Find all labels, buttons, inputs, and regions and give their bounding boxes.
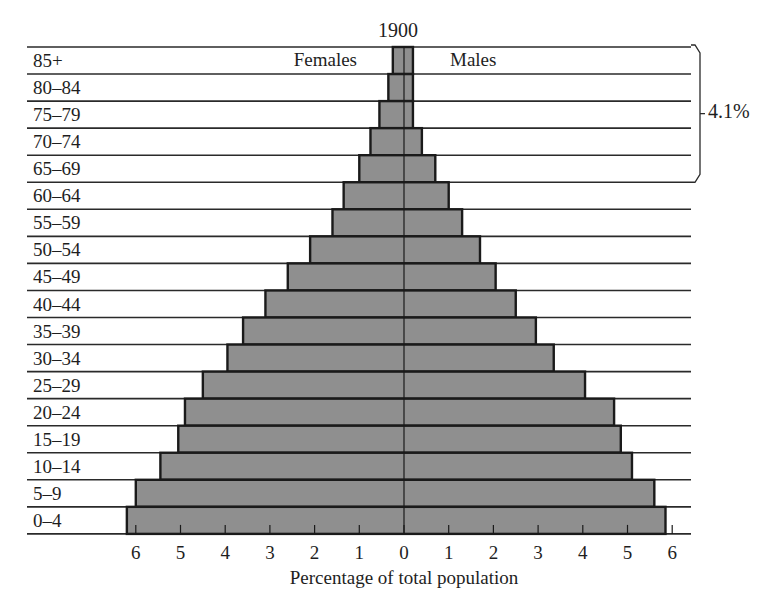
bar-85+	[393, 47, 413, 74]
x-tick-label: 1	[355, 542, 365, 563]
x-tick-label: 6	[131, 542, 141, 563]
x-tick-label: 1	[444, 542, 454, 563]
age-label: 85+	[33, 50, 63, 71]
age-label: 0–4	[33, 510, 62, 531]
age-label: 70–74	[33, 131, 81, 152]
age-label: 40–44	[33, 294, 81, 315]
bar-70-74	[370, 128, 421, 155]
age-label: 15–19	[33, 429, 81, 450]
x-tick-label: 5	[623, 542, 633, 563]
bar-5-9	[136, 480, 655, 507]
x-axis-title: Percentage of total population	[290, 567, 519, 588]
age-label: 55–59	[33, 212, 81, 233]
age-label: 10–14	[33, 456, 81, 477]
x-tick-label: 4	[220, 542, 230, 563]
bracket-annotation	[691, 45, 705, 182]
bar-25-29	[203, 372, 585, 399]
x-tick-label: 4	[578, 542, 588, 563]
bar-80-84	[388, 74, 413, 101]
bar-65-69	[359, 155, 435, 182]
bar-30-34	[227, 345, 553, 372]
bar-55-59	[332, 209, 462, 236]
bar-75-79	[379, 101, 413, 128]
age-label: 30–34	[33, 348, 81, 369]
bar-15-19	[178, 426, 621, 453]
population-pyramid-chart: 85+80–8475–7970–7465–6960–6455–5950–5445…	[0, 0, 782, 609]
x-tick-label: 5	[176, 542, 186, 563]
bar-60-64	[344, 182, 449, 209]
age-label: 65–69	[33, 158, 81, 179]
age-label: 50–54	[33, 239, 81, 260]
x-tick-label: 3	[265, 542, 275, 563]
age-label: 60–64	[33, 185, 81, 206]
age-label: 45–49	[33, 266, 81, 287]
age-label: 25–29	[33, 375, 81, 396]
x-tick-label: 2	[310, 542, 320, 563]
bar-10-14	[160, 453, 632, 480]
bar-45-49	[288, 263, 496, 290]
bar-0-4	[127, 507, 666, 534]
males-label: Males	[450, 49, 496, 70]
age-label: 5–9	[33, 483, 62, 504]
x-tick-label: 0	[399, 542, 409, 563]
chart-title: 1900	[378, 19, 418, 41]
bar-40-44	[265, 290, 515, 317]
age-label: 35–39	[33, 321, 81, 342]
females-label: Females	[294, 49, 357, 70]
age-label: 20–24	[33, 402, 81, 423]
x-tick-label: 6	[667, 542, 677, 563]
bar-50-54	[310, 236, 480, 263]
bar-35-39	[243, 318, 536, 345]
bracket-label: 4.1%	[708, 100, 750, 122]
x-tick-label: 3	[533, 542, 543, 563]
age-label: 80–84	[33, 77, 81, 98]
age-label: 75–79	[33, 104, 81, 125]
bracket	[691, 45, 700, 182]
bar-20-24	[185, 399, 614, 426]
x-tick-label: 2	[489, 542, 499, 563]
